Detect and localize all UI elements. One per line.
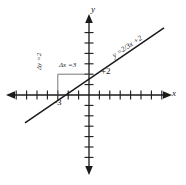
delta-x-label: Δx =3: [59, 62, 76, 69]
delta-y-label: Δy =2: [36, 53, 43, 70]
y-axis-arrow-up: [85, 14, 93, 23]
x-axis-arrow-right: [163, 91, 172, 99]
x-axis-arrow-left: [6, 91, 15, 99]
y-intercept-label: +2: [101, 67, 111, 76]
axis-label-y: y: [91, 5, 95, 14]
linear-function-graph: x y +2 -3 Δx =3 Δy =2 y =2/3x +2: [0, 0, 186, 185]
function-line: [25, 28, 164, 123]
axis-label-x: x: [172, 89, 176, 98]
graph-canvas: [0, 0, 186, 185]
x-intercept-label: -3: [54, 98, 62, 107]
rise-run-rectangle: [58, 74, 89, 95]
y-axis-arrow-down: [85, 166, 93, 175]
